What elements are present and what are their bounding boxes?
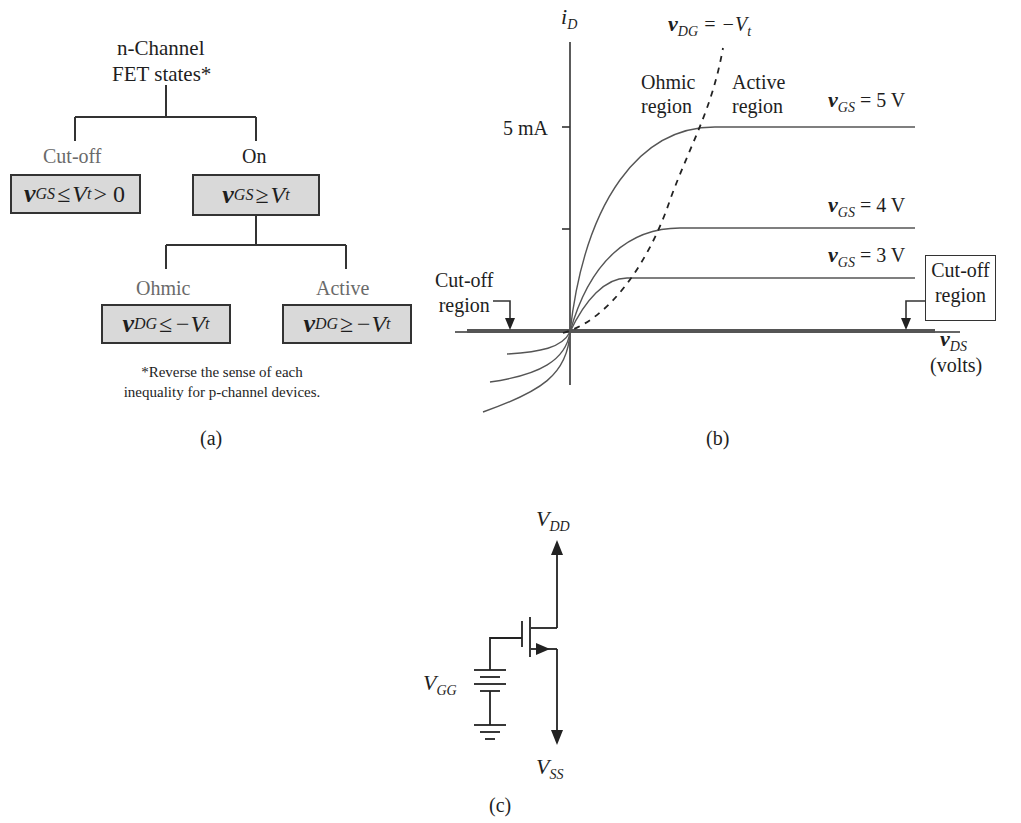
- vss-label: VSS: [536, 756, 563, 782]
- gate-wire: [490, 638, 522, 670]
- vgg-label: VGG: [423, 672, 457, 698]
- vdd-arrow: [551, 540, 563, 555]
- source-arrow: [536, 643, 550, 655]
- vss-arrow: [551, 730, 563, 745]
- vdd-label: VDD: [536, 508, 570, 534]
- caption-c: (c): [489, 795, 511, 815]
- fet-circuit: [0, 0, 1021, 823]
